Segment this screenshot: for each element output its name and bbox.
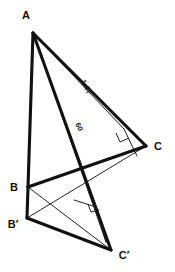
geometry-figure: A B C B′ C′ 1.47 60: [0, 0, 175, 272]
vertex-label-A: A: [22, 9, 30, 21]
segment-B-Bprime: [27, 187, 28, 218]
vertex-label-C: C: [154, 140, 162, 152]
segment-Bprime-Cprime: [27, 218, 111, 250]
measurement-label-60: 60: [73, 121, 85, 133]
figure-canvas: A B C B′ C′ 1.47 60: [0, 0, 175, 272]
perp-foot-prime: [96, 207, 106, 242]
cevian-upper-1_47: [33, 33, 124, 129]
thin-construction-lines: [27, 33, 146, 250]
vertex-label-B-prime: B′: [8, 218, 19, 230]
measurement-labels: 1.47 60: [73, 78, 94, 133]
vertex-label-B: B: [10, 181, 18, 193]
vertex-label-C-prime: C′: [119, 249, 130, 261]
segment-A-B: [28, 33, 33, 187]
